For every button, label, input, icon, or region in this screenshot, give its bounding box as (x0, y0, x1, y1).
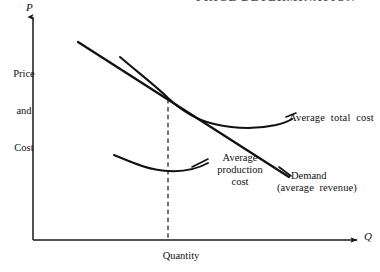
x-axis-caption: Quantity (141, 250, 221, 262)
average-total-cost-curve (120, 57, 292, 128)
apc-line-3: cost (205, 176, 275, 188)
average-total-cost-label: Average total cost (289, 112, 374, 124)
apc-line-1: Average (205, 152, 275, 164)
economics-diagram-svg (0, 0, 380, 272)
y-axis-caption-line-3: Cost (2, 142, 46, 154)
y-axis-caption: Price and Cost (2, 43, 46, 179)
average-production-cost-curve (114, 155, 208, 171)
demand-sublabel: (average revenue) (277, 182, 357, 194)
x-axis-symbol-label: Q (364, 230, 372, 243)
y-axis-symbol-label: P (26, 1, 33, 14)
figure-container: PRICE DETERMINATION P Q (0, 0, 380, 272)
y-axis-caption-line-1: Price (2, 68, 46, 80)
average-production-cost-label: Averageproductioncost (205, 152, 275, 188)
apc-line-2: production (205, 164, 275, 176)
demand-label: Demand (291, 170, 327, 182)
y-axis-caption-line-2: and (2, 105, 46, 117)
